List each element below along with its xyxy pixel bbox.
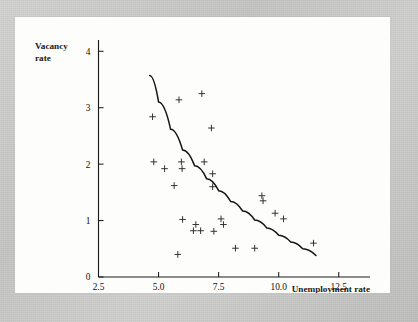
- data-point-marker: [208, 125, 215, 132]
- page-background: 01234 2.55.07.510.012.5 Vacancy rate Une…: [0, 0, 418, 322]
- data-point-marker: [199, 90, 206, 97]
- data-point-marker: [251, 245, 258, 252]
- y-axis-ticks: [99, 51, 104, 277]
- data-point-marker: [176, 97, 183, 104]
- y-axis-tick-labels: 01234: [86, 47, 91, 283]
- data-point-marker: [193, 221, 200, 228]
- x-tick-label: 7.5: [213, 282, 225, 292]
- data-point-marker: [310, 240, 317, 247]
- data-point-marker: [161, 165, 168, 172]
- y-axis-title-line-2: rate: [35, 53, 51, 63]
- data-point-marker: [260, 198, 267, 205]
- data-point-marker: [179, 216, 186, 223]
- x-tick-label: 10.0: [270, 282, 287, 292]
- data-point-marker: [197, 227, 204, 234]
- x-tick-label: 5.0: [153, 282, 165, 292]
- y-axis: 01234: [86, 40, 104, 282]
- data-point-marker: [232, 245, 239, 252]
- data-point-marker: [178, 159, 185, 166]
- y-tick-label: 1: [86, 216, 91, 226]
- data-point-marker: [171, 182, 178, 189]
- y-tick-label: 3: [86, 103, 91, 113]
- y-tick-label: 0: [86, 272, 91, 282]
- scatter-chart: 01234 2.55.07.510.012.5 Vacancy rate Une…: [15, 17, 390, 293]
- y-axis-title-line-1: Vacancy: [35, 41, 68, 51]
- data-point-marker: [209, 170, 216, 177]
- data-point-marker: [272, 210, 279, 217]
- data-point-marker: [174, 251, 181, 258]
- data-point-marker: [201, 159, 208, 166]
- data-point-marker: [280, 216, 287, 223]
- data-point-marker: [220, 221, 227, 228]
- data-point-marker: [211, 228, 218, 235]
- x-axis-title: Unemployment rate: [292, 284, 370, 293]
- data-point-marker: [259, 192, 266, 199]
- data-point-marker: [190, 227, 197, 234]
- figure-card: 01234 2.55.07.510.012.5 Vacancy rate Une…: [15, 17, 390, 293]
- data-point-marker: [149, 113, 156, 120]
- fitted-curve: [150, 76, 316, 256]
- data-point-marker: [150, 159, 157, 166]
- data-point-marker: [218, 216, 225, 223]
- y-tick-label: 4: [86, 47, 91, 57]
- y-tick-label: 2: [86, 160, 91, 170]
- data-points: [149, 90, 317, 257]
- data-point-marker: [179, 165, 186, 172]
- x-axis-ticks: [99, 272, 339, 277]
- x-tick-label: 2.5: [93, 282, 105, 292]
